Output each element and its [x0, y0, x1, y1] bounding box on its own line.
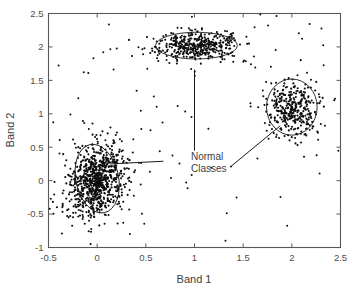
- data-point: [284, 118, 286, 120]
- data-point: [195, 38, 197, 40]
- data-point: [128, 159, 130, 161]
- data-point: [87, 153, 89, 155]
- data-point: [128, 208, 130, 210]
- data-point: [79, 215, 81, 217]
- data-point: [266, 130, 268, 132]
- data-point: [93, 213, 95, 215]
- data-point: [77, 216, 79, 218]
- data-point: [80, 209, 82, 211]
- data-point: [290, 104, 292, 106]
- data-point: [306, 100, 308, 102]
- data-point: [320, 123, 322, 125]
- data-point: [112, 169, 114, 171]
- data-point: [49, 208, 51, 210]
- data-point: [284, 135, 286, 137]
- data-point: [116, 185, 118, 187]
- data-point: [88, 230, 90, 232]
- data-point: [306, 121, 308, 123]
- data-point: [130, 181, 132, 183]
- data-point: [106, 185, 108, 187]
- data-point: [120, 177, 122, 179]
- data-point: [189, 29, 191, 31]
- data-point: [310, 79, 312, 81]
- data-point: [85, 211, 87, 213]
- data-point: [273, 132, 275, 134]
- data-point: [323, 64, 325, 66]
- data-point: [204, 36, 206, 38]
- data-point: [306, 123, 308, 125]
- data-point: [186, 56, 188, 58]
- data-point: [285, 101, 287, 103]
- data-point: [283, 85, 285, 87]
- data-point: [165, 44, 167, 46]
- data-point: [165, 34, 167, 36]
- data-point: [101, 169, 103, 171]
- data-point: [116, 155, 118, 157]
- data-point: [61, 206, 63, 208]
- data-point: [91, 191, 93, 193]
- data-point: [64, 165, 66, 167]
- data-point: [87, 72, 89, 74]
- data-point: [134, 169, 136, 171]
- data-point: [90, 165, 92, 167]
- data-point: [89, 188, 91, 190]
- data-point: [92, 171, 94, 173]
- data-point: [77, 97, 79, 99]
- data-point: [300, 125, 302, 127]
- data-point: [104, 223, 106, 225]
- data-point: [208, 56, 210, 58]
- data-point: [232, 61, 234, 63]
- x-tick-label: 0.5: [139, 252, 152, 263]
- data-point: [170, 177, 172, 179]
- data-point: [226, 212, 228, 214]
- data-point: [61, 233, 63, 235]
- data-point: [83, 181, 85, 183]
- data-point: [66, 209, 68, 211]
- data-point: [140, 128, 142, 130]
- data-point: [81, 145, 83, 147]
- data-point: [159, 150, 161, 152]
- data-point: [149, 52, 151, 54]
- data-point: [231, 41, 233, 43]
- data-point: [277, 90, 279, 92]
- data-point: [224, 30, 226, 32]
- data-point: [104, 206, 106, 208]
- data-point: [307, 96, 309, 98]
- data-point: [294, 115, 296, 117]
- data-point: [161, 39, 163, 41]
- data-point: [85, 185, 87, 187]
- data-point: [104, 174, 106, 176]
- data-point: [282, 93, 284, 95]
- data-point: [143, 223, 145, 225]
- data-point: [295, 96, 297, 98]
- data-point: [212, 48, 214, 50]
- data-point: [178, 43, 180, 45]
- data-point: [122, 175, 124, 177]
- data-point: [222, 41, 224, 43]
- data-point: [170, 32, 172, 34]
- data-point: [116, 173, 118, 175]
- data-point: [91, 123, 93, 125]
- data-point: [91, 199, 93, 201]
- data-point: [259, 14, 261, 16]
- data-point: [117, 190, 119, 192]
- data-point: [141, 48, 143, 50]
- data-point: [294, 101, 296, 103]
- data-point: [92, 195, 94, 197]
- data-point: [105, 144, 107, 146]
- data-point: [108, 214, 110, 216]
- data-point: [91, 156, 93, 158]
- data-point: [277, 107, 279, 109]
- data-point: [101, 130, 103, 132]
- data-point: [80, 175, 82, 177]
- data-point: [67, 216, 69, 218]
- y-tick-label: 2: [38, 41, 43, 52]
- data-point: [88, 167, 90, 169]
- data-point: [253, 55, 255, 57]
- data-point: [208, 52, 210, 54]
- data-point: [82, 210, 84, 212]
- data-point: [71, 225, 73, 227]
- data-point: [124, 186, 126, 188]
- data-point: [286, 123, 288, 125]
- data-point: [293, 97, 295, 99]
